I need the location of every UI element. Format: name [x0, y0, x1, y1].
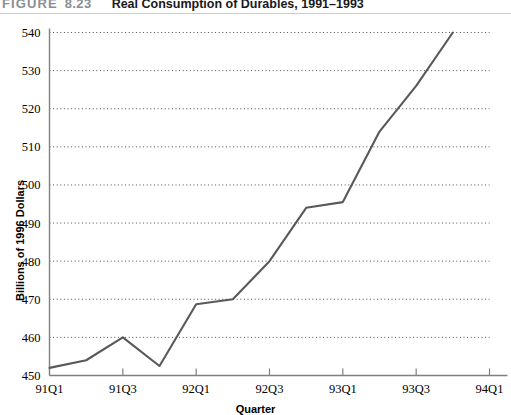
x-tick-label: 92Q3 — [256, 382, 284, 396]
line-chart: 450460470480490500510520530540 91Q191Q39… — [0, 14, 511, 414]
x-tick-labels: 91Q191Q392Q192Q393Q193Q394Q1 — [36, 382, 504, 396]
data-series-line — [50, 33, 453, 368]
chart-region: 450460470480490500510520530540 91Q191Q39… — [0, 14, 511, 414]
gridlines-group — [50, 33, 490, 376]
y-tick-label: 520 — [22, 102, 41, 116]
x-axis-title: Quarter — [0, 403, 511, 415]
x-tick-label: 94Q1 — [476, 382, 504, 396]
figure-title: Real Consumption of Durables, 1991–1993 — [112, 0, 364, 11]
figure-number: 8.23 — [65, 0, 92, 11]
y-axis-title: Billions of 1996 Dollars — [14, 180, 26, 301]
x-tick-label: 93Q1 — [329, 382, 357, 396]
x-tick-label: 91Q3 — [109, 382, 137, 396]
x-tick-label: 91Q1 — [36, 382, 64, 396]
x-tick-marks — [123, 369, 490, 376]
figure-label: FIGURE — [2, 0, 58, 11]
y-tick-label: 460 — [22, 331, 41, 345]
figure-header-band: FIGURE 8.23 Real Consumption of Durables… — [0, 0, 511, 14]
y-tick-label: 530 — [22, 64, 41, 78]
y-tick-label: 510 — [22, 140, 41, 154]
y-tick-label: 540 — [22, 26, 41, 40]
x-tick-label: 93Q3 — [402, 382, 430, 396]
x-tick-label: 92Q1 — [182, 382, 210, 396]
